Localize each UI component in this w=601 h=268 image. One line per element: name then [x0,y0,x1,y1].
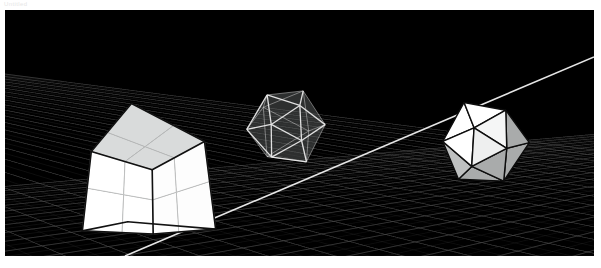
scene-canvas[interactable] [5,10,594,256]
scene-svg [5,10,594,256]
app-root: Untitled [0,0,601,268]
3d-viewport[interactable] [5,10,594,256]
status-text: Untitled [4,0,28,9]
cube-face [122,195,153,234]
